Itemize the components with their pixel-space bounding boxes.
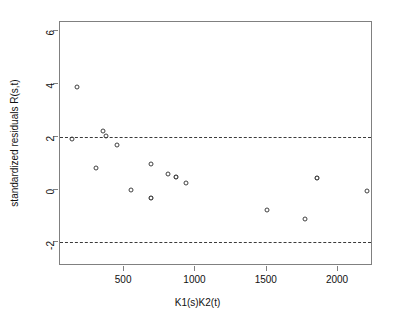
- data-point: [69, 136, 74, 141]
- data-point: [315, 176, 320, 181]
- data-point: [74, 84, 79, 89]
- x-tick-mark: [123, 266, 124, 271]
- data-point: [128, 188, 133, 193]
- data-point: [184, 181, 189, 186]
- data-point: [148, 196, 153, 201]
- data-point: [93, 165, 98, 170]
- data-point: [303, 216, 308, 221]
- reference-line-lower-threshold: [60, 242, 371, 243]
- data-point: [265, 207, 270, 212]
- y-tick-label: 4: [45, 83, 56, 89]
- x-tick-mark: [194, 266, 195, 271]
- x-tick-mark: [266, 266, 267, 271]
- data-point: [173, 175, 178, 180]
- data-point: [165, 172, 170, 177]
- x-tick-label: 500: [115, 274, 132, 285]
- data-layer: [60, 22, 371, 264]
- x-tick-label: 1000: [183, 274, 205, 285]
- data-point: [115, 143, 120, 148]
- y-tick-label: -2: [45, 241, 56, 250]
- data-point: [103, 133, 108, 138]
- x-tick-mark: [337, 266, 338, 271]
- plot-panel: [59, 21, 372, 265]
- y-axis-title: standardized residuals R(s,t): [9, 79, 20, 206]
- y-tick-label: 0: [45, 189, 56, 195]
- x-axis-title: K1(s)K2(t): [0, 297, 395, 308]
- y-tick-label: 6: [45, 30, 56, 36]
- x-tick-label: 2000: [326, 274, 348, 285]
- scatter-plot-figure: 500100015002000 6420-2 K1(s)K2(t) standa…: [0, 0, 395, 326]
- y-tick-label: 2: [45, 136, 56, 142]
- x-tick-label: 1500: [255, 274, 277, 285]
- data-point: [365, 189, 370, 194]
- data-point: [148, 162, 153, 167]
